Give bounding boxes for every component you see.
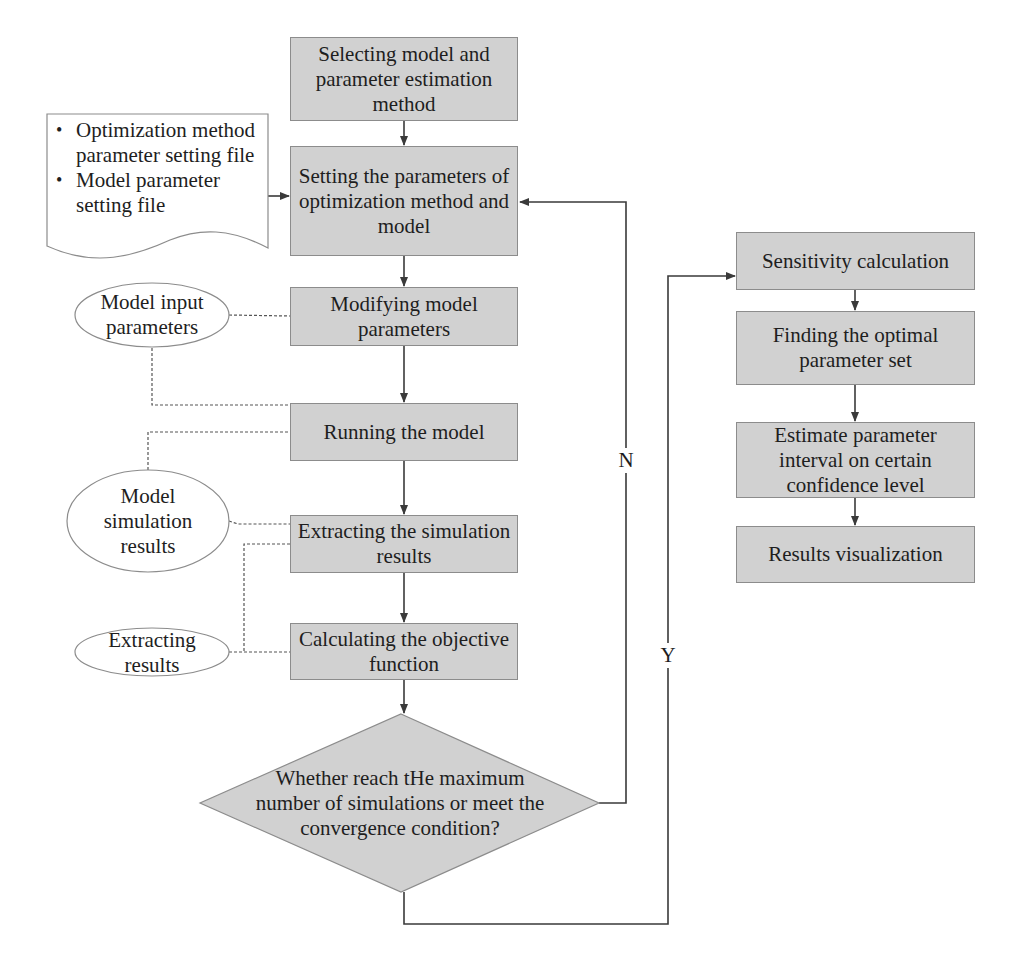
step-modify-parameters: Modifying model parameters	[290, 287, 518, 346]
document-item-label: Model parameter setting file	[76, 168, 220, 217]
step-run-model: Running the model	[290, 403, 518, 461]
decision-label: Whether reach tHe maximum number of simu…	[250, 766, 550, 841]
yes-branch-label: Y	[659, 643, 677, 668]
step-select-model-label: Selecting model and parameter estimation…	[295, 42, 513, 117]
step-sensitivity: Sensitivity calculation	[736, 232, 975, 290]
extract-results-label: Extracting results	[92, 628, 212, 678]
step-extract-results-label: Extracting the simulation results	[295, 519, 513, 569]
document-item: • Optimization method parameter setting …	[50, 118, 270, 168]
step-confidence-interval-label: Estimate parameter interval on certain c…	[741, 423, 970, 498]
loop-no-path	[520, 202, 626, 803]
step-select-model: Selecting model and parameter estimation…	[290, 37, 518, 121]
link-simresults-to-extract	[229, 521, 290, 524]
bullet-icon: •	[56, 118, 62, 143]
bullet-icon: •	[56, 168, 62, 193]
link-input-to-modify	[229, 315, 290, 316]
link-input-to-run	[152, 348, 290, 405]
step-set-parameters: Setting the parameters of optimization m…	[290, 146, 518, 256]
step-optimal-set: Finding the optimal parameter set	[736, 311, 975, 385]
no-branch-label: N	[617, 448, 635, 473]
sim-results-label: Model simulation results	[95, 482, 201, 560]
settings-document: • Optimization method parameter setting …	[50, 118, 270, 218]
flowchart-canvas: Selecting model and parameter estimation…	[0, 0, 1018, 975]
step-visualization-label: Results visualization	[768, 542, 942, 567]
step-sensitivity-label: Sensitivity calculation	[762, 249, 949, 274]
link-extract-to-extractresults	[244, 544, 290, 652]
step-confidence-interval: Estimate parameter interval on certain c…	[736, 422, 975, 498]
step-extract-results: Extracting the simulation results	[290, 515, 518, 573]
document-item-label: Optimization method parameter setting fi…	[76, 118, 255, 167]
input-params-label: Model input parameters	[88, 289, 216, 341]
step-set-parameters-label: Setting the parameters of optimization m…	[295, 164, 513, 239]
step-objective-function: Calculating the objective function	[290, 623, 518, 680]
link-simresults-to-run	[148, 432, 290, 470]
step-modify-parameters-label: Modifying model parameters	[295, 292, 513, 342]
step-visualization: Results visualization	[736, 526, 975, 583]
document-item: • Model parameter setting file	[50, 168, 270, 218]
step-objective-function-label: Calculating the objective function	[295, 627, 513, 677]
step-optimal-set-label: Finding the optimal parameter set	[741, 323, 970, 373]
step-run-model-label: Running the model	[324, 420, 485, 445]
